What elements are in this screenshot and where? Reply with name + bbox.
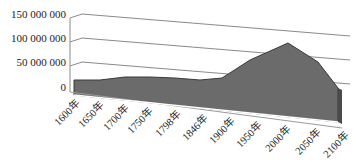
area-side-face xyxy=(338,88,342,124)
side-wall-top xyxy=(70,14,82,18)
y-tick-label: 50 000 000 xyxy=(17,57,67,68)
y-tick-label: 0 xyxy=(61,82,67,93)
area-chart-3d: 150 000 000 100 000 000 50 000 000 0 160… xyxy=(0,0,360,166)
gridline-150m xyxy=(82,14,350,36)
side-grid-50m xyxy=(70,62,82,66)
side-grid-100m xyxy=(70,38,82,42)
y-tick-label: 150 000 000 xyxy=(11,9,66,20)
y-tick-label: 100 000 000 xyxy=(11,33,66,44)
